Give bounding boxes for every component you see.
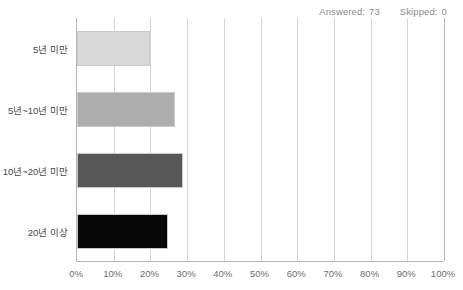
bar bbox=[77, 31, 150, 66]
category-label: 20년 이상 bbox=[0, 225, 68, 239]
category-label: 5년~10년 미만 bbox=[0, 103, 68, 117]
x-tick-label: 10% bbox=[103, 268, 122, 279]
answered-label: Answered: bbox=[319, 6, 365, 17]
category-label: 10년~20년 미만 bbox=[0, 164, 68, 178]
skipped-label: Skipped: bbox=[400, 6, 438, 17]
plot-area bbox=[76, 18, 443, 262]
bar bbox=[77, 92, 175, 127]
category-label: 5년 미만 bbox=[0, 42, 68, 56]
x-tick-label: 60% bbox=[287, 268, 306, 279]
gridline bbox=[444, 18, 445, 261]
answered-value: 73 bbox=[369, 6, 380, 17]
x-axis-tick-labels: 0%10%20%30%40%50%60%70%80%90%100% bbox=[76, 268, 443, 284]
survey-response-summary: Answered: 73 Skipped: 0 bbox=[319, 6, 447, 17]
x-tick-label: 40% bbox=[213, 268, 232, 279]
answered-stat: Answered: 73 bbox=[319, 6, 380, 17]
gridline bbox=[407, 18, 408, 261]
gridline bbox=[334, 18, 335, 261]
x-tick-label: 50% bbox=[250, 268, 269, 279]
bar bbox=[77, 153, 183, 188]
gridline bbox=[297, 18, 298, 261]
category-axis-labels: 5년 미만5년~10년 미만10년~20년 미만20년 이상 bbox=[0, 18, 68, 262]
gridline bbox=[224, 18, 225, 261]
x-tick-label: 90% bbox=[397, 268, 416, 279]
gridline bbox=[261, 18, 262, 261]
x-tick-label: 20% bbox=[140, 268, 159, 279]
x-tick-label: 70% bbox=[323, 268, 342, 279]
skipped-stat: Skipped: 0 bbox=[400, 6, 447, 17]
x-tick-label: 100% bbox=[431, 268, 455, 279]
x-tick-label: 30% bbox=[177, 268, 196, 279]
gridline bbox=[187, 18, 188, 261]
skipped-value: 0 bbox=[442, 6, 447, 17]
x-tick-label: 80% bbox=[360, 268, 379, 279]
gridline bbox=[371, 18, 372, 261]
bar bbox=[77, 214, 168, 249]
x-tick-label: 0% bbox=[69, 268, 83, 279]
chart-container: Answered: 73 Skipped: 0 5년 미만5년~10년 미만10… bbox=[0, 0, 463, 290]
